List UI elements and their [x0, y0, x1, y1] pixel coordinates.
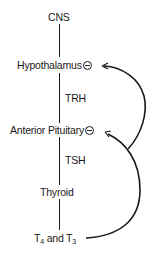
anterior-pituitary-node: Anterior Pituitary [10, 124, 94, 136]
feedback-arrow-to-hypothalamus [104, 66, 145, 149]
anterior-pituitary-label: Anterior Pituitary [10, 124, 84, 136]
tsh-label: TSH [65, 154, 85, 166]
thyroid-feedback-diagram: CNS Hypothalamus TRH Anterior Pituitary … [0, 0, 152, 257]
minus-circle-icon [85, 126, 94, 135]
trh-label: TRH [65, 92, 86, 104]
cns-label: CNS [48, 11, 70, 23]
thyroid-label: Thyroid [40, 186, 74, 198]
t3-subscript: 3 [72, 238, 76, 245]
t4-and-t3-label: T4 and T3 [34, 232, 76, 244]
minus-circle-icon [83, 61, 92, 70]
and-text: and [44, 232, 66, 244]
feedback-arrow-to-pituitary [86, 134, 140, 238]
hypothalamus-label: Hypothalamus [17, 59, 82, 71]
hypothalamus-node: Hypothalamus [17, 59, 92, 71]
